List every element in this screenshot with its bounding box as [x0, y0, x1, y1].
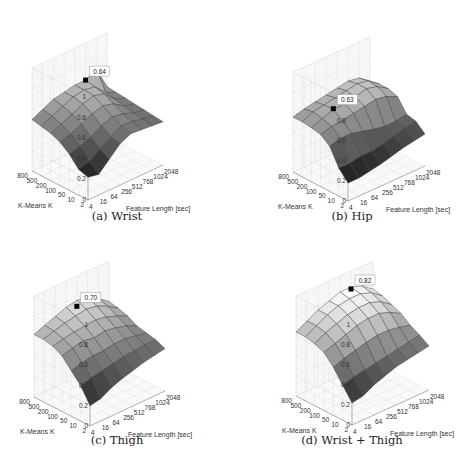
- z-tick-label: 0.8: [79, 341, 88, 348]
- panel-wrist-thigh: 00.20.40.60.8121050100200500800416642565…: [235, 235, 469, 471]
- x-tick-label: 16: [100, 198, 108, 205]
- datatip-marker: [74, 304, 79, 309]
- x-tick-label: 2048: [430, 393, 445, 400]
- z-tick-label: 0.4: [77, 155, 86, 162]
- z-tick-label: 0.6: [337, 137, 346, 144]
- z-tick-label: 0.2: [341, 401, 350, 408]
- y-tick-label: 10: [69, 422, 77, 429]
- x-tick-label: 16: [364, 423, 372, 430]
- datatip-marker: [331, 106, 336, 111]
- z-tick-label: 1: [82, 93, 86, 100]
- datatip-marker: [349, 287, 354, 292]
- x-tick-label: 16: [102, 424, 110, 431]
- y-tick-label: 100: [45, 187, 56, 194]
- surface-plot-wrist: 00.20.40.60.8121050100200500800416642565…: [0, 0, 234, 236]
- y-tick-label: 200: [38, 408, 49, 415]
- surface-plot-hip: 00.20.40.60.8121050100200500800416642565…: [235, 0, 469, 236]
- y-tick-label: 100: [309, 412, 320, 419]
- x-tick-label: 2048: [426, 169, 441, 176]
- x-tick-label: 16: [360, 199, 368, 206]
- y-tick-label: 200: [300, 407, 311, 414]
- z-tick-label: 0.2: [337, 177, 346, 184]
- datatip: 0.82: [355, 275, 375, 285]
- x-tick-label: 768: [145, 404, 156, 411]
- svg-text:0.82: 0.82: [359, 277, 372, 284]
- z-tick-label: 0.2: [77, 175, 86, 182]
- y-tick-label: 10: [331, 421, 339, 428]
- x-tick-label: 512: [134, 409, 145, 416]
- x-tick-label: 256: [123, 414, 134, 421]
- y-tick-label: 200: [36, 182, 47, 189]
- svg-text:0.63: 0.63: [341, 96, 354, 103]
- panel-thigh: 00.20.40.60.8121050100200500800416642565…: [0, 235, 234, 471]
- svg-text:0.70: 0.70: [85, 294, 98, 301]
- y-tick-label: 800: [281, 397, 292, 404]
- y-tick-label: 10: [328, 197, 336, 204]
- y-tick-label: 500: [28, 403, 39, 410]
- y-tick-label: 50: [58, 191, 66, 198]
- z-tick-label: 0.4: [341, 381, 350, 388]
- x-tick-label: 64: [110, 193, 118, 200]
- svg-text:0.64: 0.64: [93, 68, 106, 75]
- z-tick-label: 0.4: [337, 157, 346, 164]
- z-tick-label: 0.4: [79, 382, 88, 389]
- datatip: 0.63: [337, 95, 357, 105]
- caption-thigh: (c) Thigh: [0, 433, 234, 447]
- z-tick-label: 0.8: [77, 114, 86, 121]
- y-tick-label: 500: [26, 177, 37, 184]
- z-tick-label: 0.8: [337, 117, 346, 124]
- z-tick-label: 0.6: [77, 134, 86, 141]
- y-tick-label: 50: [318, 192, 326, 199]
- panel-hip: 00.20.40.60.8121050100200500800416642565…: [235, 0, 469, 236]
- z-tick-label: 1: [346, 321, 350, 328]
- y-tick-label: 500: [290, 402, 301, 409]
- x-tick-label: 768: [143, 178, 154, 185]
- y-tick-label: 100: [47, 413, 58, 420]
- x-tick-label: 256: [386, 413, 397, 420]
- caption-hip: (b) Hip: [235, 209, 469, 223]
- datatip-marker: [83, 78, 88, 83]
- y-tick-label: 2: [340, 202, 344, 209]
- z-tick-label: 1: [84, 321, 88, 328]
- z-tick-label: 0.6: [341, 361, 350, 368]
- x-tick-label: 256: [382, 189, 393, 196]
- y-tick-label: 800: [19, 398, 30, 405]
- y-tick-label: 50: [322, 416, 330, 423]
- x-tick-label: 512: [397, 408, 408, 415]
- caption-wrist-thigh: (d) Wrist + Thigh: [235, 433, 469, 447]
- z-tick-label: 0.2: [79, 402, 88, 409]
- y-axis-label: K-Means K: [18, 202, 53, 209]
- y-tick-label: 800: [17, 172, 28, 179]
- x-tick-label: 2048: [164, 168, 179, 175]
- y-tick-label: 10: [67, 196, 75, 203]
- panel-wrist: 00.20.40.60.8121050100200500800416642565…: [0, 0, 234, 236]
- y-tick-label: 2: [80, 201, 84, 208]
- x-tick-label: 768: [408, 403, 419, 410]
- z-tick-label: 0.6: [79, 361, 88, 368]
- y-tick-label: 50: [60, 417, 68, 424]
- x-tick-label: 2048: [166, 394, 181, 401]
- x-tick-label: 512: [393, 184, 404, 191]
- caption-wrist: (a) Wrist: [0, 209, 234, 223]
- z-tick-label: 0.8: [341, 341, 350, 348]
- datatip: 0.64: [90, 66, 110, 76]
- x-tick-label: 64: [112, 419, 120, 426]
- x-tick-label: 256: [121, 188, 132, 195]
- x-tick-label: 512: [132, 183, 143, 190]
- y-tick-label: 2: [344, 426, 348, 433]
- y-tick-label: 800: [278, 173, 289, 180]
- x-tick-label: 64: [371, 194, 379, 201]
- datatip: 0.70: [81, 292, 101, 302]
- x-tick-label: 768: [404, 179, 415, 186]
- x-tick-label: 64: [375, 418, 383, 425]
